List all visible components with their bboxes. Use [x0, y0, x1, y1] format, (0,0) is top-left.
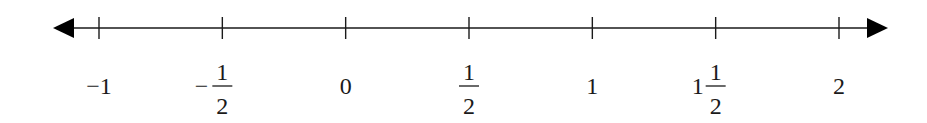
tick-label: 0	[340, 73, 352, 99]
fraction-numerator: 1	[463, 59, 475, 85]
mixed-number-whole: 1	[692, 73, 704, 99]
tick-label: −1	[86, 73, 112, 99]
right-arrow-icon	[867, 18, 888, 38]
number-line: −112−01211212	[0, 0, 927, 123]
fraction-denominator: 2	[710, 93, 722, 119]
fraction-numerator: 1	[216, 59, 228, 85]
fraction-numerator: 1	[710, 59, 722, 85]
fraction-denominator: 2	[463, 93, 475, 119]
fraction-sign: −	[195, 73, 209, 99]
labels-group: −112−01211212	[86, 59, 845, 119]
fraction-denominator: 2	[216, 93, 228, 119]
left-arrow-icon	[53, 18, 74, 38]
tick-label: 1	[586, 73, 598, 99]
tick-label: 2	[833, 73, 845, 99]
